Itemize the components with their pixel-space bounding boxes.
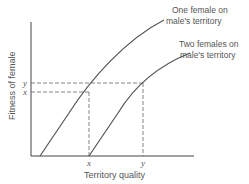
y-axis-title: Fitness of female bbox=[7, 51, 17, 120]
label-two-females-line1: Two females on bbox=[179, 39, 239, 49]
chart: y x x y Territory quality Fitness of fem… bbox=[0, 0, 249, 184]
label-one-female-line1: One female on bbox=[172, 5, 228, 15]
y-axis-tick-x: x bbox=[22, 87, 27, 97]
x-axis-tick-y: y bbox=[140, 158, 145, 168]
label-two-females-line2: male's territory bbox=[180, 50, 236, 60]
label-one-female-line2: male's territory bbox=[166, 16, 222, 26]
curve-two-females bbox=[89, 53, 190, 156]
curve-one-female bbox=[40, 20, 164, 156]
x-axis-title: Territory quality bbox=[84, 170, 146, 180]
x-axis-tick-x: x bbox=[86, 158, 91, 168]
